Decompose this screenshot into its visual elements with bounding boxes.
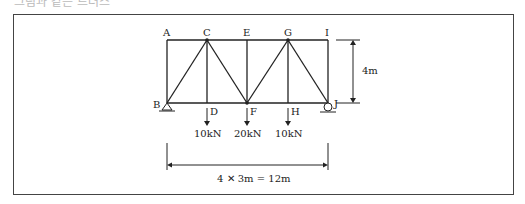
node-label-a: A: [162, 27, 171, 38]
node-label-c: C: [203, 27, 211, 38]
load-h: 10kN: [275, 128, 303, 139]
load-f: 20kN: [234, 128, 262, 139]
node-label-f: F: [250, 106, 257, 117]
load-d: 10kN: [194, 128, 222, 139]
pin-support-icon: [159, 103, 175, 111]
node-label-i: I: [325, 27, 329, 38]
node-label-b: B: [153, 99, 160, 110]
height-dimension: 4m: [362, 65, 378, 76]
node-label-g: G: [284, 27, 292, 38]
truss-diagram: A C E G I B D F H J 10kN 20kN 10kN 4m 4 …: [0, 0, 525, 204]
node-label-d: D: [210, 106, 218, 117]
node-label-h: H: [291, 106, 300, 117]
span-dimension: 4 ✕ 3m = 12m: [217, 173, 291, 184]
node-label-e: E: [243, 27, 250, 38]
